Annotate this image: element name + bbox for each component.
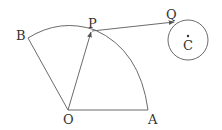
label-c: C [183, 38, 193, 53]
center-dot-c [187, 35, 189, 37]
diagram-canvas: O A B P Q C [0, 0, 222, 130]
label-o: O [63, 112, 74, 127]
label-q: Q [166, 7, 177, 22]
vector-op [68, 32, 91, 110]
label-p: P [88, 16, 97, 31]
arc-ab [28, 26, 148, 111]
vector-pq [92, 22, 174, 31]
segment-ob [28, 38, 68, 110]
label-b: B [16, 28, 26, 43]
label-a: A [147, 112, 158, 127]
